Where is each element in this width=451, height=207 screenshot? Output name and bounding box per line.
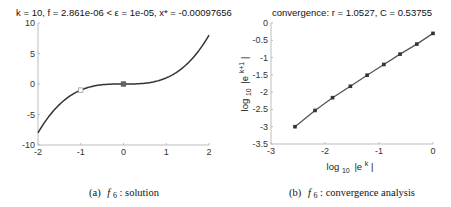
- solution-ytick-label: -5: [27, 110, 35, 120]
- convergence-ytick-label: -3: [260, 122, 268, 132]
- caption-func: f: [107, 187, 112, 198]
- chart-solution: k = 10, f = 2.861e-06 < ε = 1e-05, x* = …: [16, 7, 232, 200]
- convergence-xtick-label: 0: [430, 146, 435, 156]
- ylabel-end: |: [239, 57, 250, 59]
- xlabel-main: log: [327, 161, 340, 172]
- caption-prefix: (a): [89, 187, 101, 199]
- solution-xtick-label: -2: [34, 147, 42, 157]
- xlabel-end: |: [371, 161, 373, 172]
- marker-solution: [121, 82, 125, 86]
- data-point: [365, 73, 369, 77]
- ylabel-main: log: [239, 99, 250, 112]
- data-point: [382, 63, 386, 67]
- data-point: [293, 125, 297, 129]
- caption-func: f: [308, 187, 313, 198]
- convergence-ytick-label: 0: [263, 18, 268, 28]
- ticks-convergence: -3-2-10-3.5-3-2.5-2-1.5-1-0.50: [252, 18, 435, 156]
- ylabel-sub: 10: [245, 88, 252, 96]
- caption-solution: (a) f 6 : solution: [89, 187, 160, 200]
- convergence-ytick-label: -3.5: [252, 139, 268, 149]
- solution-ytick-label: 5: [30, 49, 35, 59]
- x-axis-label-convergence: log 10 |e k |: [327, 157, 374, 175]
- solution-xtick-label: 1: [164, 147, 169, 157]
- marker-start: [79, 88, 83, 92]
- data-point: [331, 96, 335, 100]
- caption-prefix: (b): [289, 187, 302, 199]
- chart-title-solution: k = 10, f = 2.861e-06 < ε = 1e-05, x* = …: [16, 7, 232, 18]
- ylabel-sup: k+1: [238, 62, 245, 74]
- y-axis-label-convergence: log 10 |e k+1 |: [235, 57, 253, 112]
- convergence-ytick-label: -0.5: [252, 35, 268, 45]
- caption-convergence: (b) f 6 : convergence analysis: [289, 187, 415, 200]
- caption-sub: 6: [313, 191, 317, 200]
- data-point: [313, 109, 317, 113]
- solution-ytick-label: 10: [25, 18, 35, 28]
- solution-ytick-label: 0: [30, 79, 35, 89]
- fit-line: [295, 33, 433, 126]
- solution-ytick-label: -10: [22, 140, 35, 150]
- xlabel-arg: |e: [354, 161, 362, 172]
- convergence-ytick-label: -2.5: [252, 104, 268, 114]
- data-point: [431, 32, 435, 36]
- chart-convergence: convergence: r = 1.0527, C = 0.53755 -3-…: [235, 7, 436, 200]
- data-point: [349, 84, 353, 88]
- convergence-ytick-label: -2: [260, 87, 268, 97]
- data-point: [398, 52, 402, 56]
- solution-xtick-label: 2: [206, 147, 211, 157]
- solution-xtick-label: 0: [121, 147, 126, 157]
- xlabel-sup: k: [365, 160, 369, 167]
- convergence-ytick-label: -1.5: [252, 70, 268, 80]
- data-point: [415, 42, 419, 46]
- chart-title-convergence: convergence: r = 1.0527, C = 0.53755: [272, 7, 432, 18]
- caption-sub: 6: [113, 191, 117, 200]
- convergence-xtick-label: -2: [321, 146, 329, 156]
- xlabel-sub: 10: [342, 167, 350, 174]
- caption-rest: : convergence analysis: [320, 187, 415, 198]
- solution-xtick-label: -1: [77, 147, 85, 157]
- figure-canvas: k = 10, f = 2.861e-06 < ε = 1e-05, x* = …: [0, 0, 451, 207]
- convergence-xtick-label: -1: [375, 146, 383, 156]
- ticks-solution: -2-1012-10-50510: [22, 18, 212, 157]
- convergence-ytick-label: -1: [260, 53, 268, 63]
- convergence-xtick-label: -3: [267, 146, 275, 156]
- ylabel-arg: |e: [239, 76, 250, 84]
- caption-rest: : solution: [120, 187, 160, 198]
